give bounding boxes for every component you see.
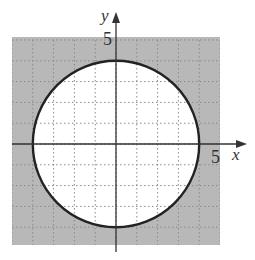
y-tick-label: 5 (103, 29, 112, 49)
y-axis-arrow-icon (112, 12, 120, 23)
graph: y 5 5 x (0, 0, 255, 260)
x-tick-label: 5 (211, 147, 220, 167)
x-axis-label: x (231, 145, 240, 164)
y-axis-label: y (99, 6, 109, 25)
